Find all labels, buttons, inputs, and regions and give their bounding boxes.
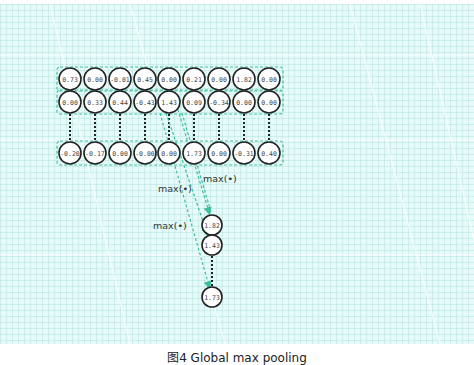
input-node: 0.45 xyxy=(134,68,156,90)
input-node: 1.43 xyxy=(158,91,180,113)
input-node-value: 1.82 xyxy=(236,76,252,84)
input-node: 0.00 xyxy=(158,142,180,164)
input-node: -0.43 xyxy=(134,91,156,113)
input-node-value: 0.21 xyxy=(186,76,202,84)
input-node: 0.00 xyxy=(208,68,230,90)
input-node-value: 1.73 xyxy=(186,150,202,158)
figure-caption: 图4 Global max pooling xyxy=(0,348,474,365)
input-node-value: 0.00 xyxy=(261,76,277,84)
input-node: 0.00 xyxy=(84,68,106,90)
output-node-value: 1.82 xyxy=(204,222,220,230)
output-node: 1.73 xyxy=(202,287,222,307)
input-node: -0.20 xyxy=(59,142,81,164)
input-node-value: 0.00 xyxy=(211,150,227,158)
output-node-value: 1.73 xyxy=(204,294,220,302)
input-node-value: 0.40 xyxy=(261,150,277,158)
input-node: 0.33 xyxy=(84,91,106,113)
input-node: -0.00 xyxy=(134,142,156,164)
background-lines xyxy=(0,4,474,344)
input-node-value: 1.43 xyxy=(161,99,177,107)
input-node: 0.00 xyxy=(258,68,280,90)
op-label-1: max(•) xyxy=(203,173,237,184)
input-node: -0.34 xyxy=(208,91,230,113)
input-node-value: 0.00 xyxy=(161,150,177,158)
input-node: 0.21 xyxy=(183,68,205,90)
input-node-value: -0.34 xyxy=(209,99,229,107)
input-node: 0.00 xyxy=(158,68,180,90)
max-pooling-diagram: 0.730.00-0.010.450.000.210.001.820.000.0… xyxy=(0,4,474,344)
input-node-value: 0.45 xyxy=(137,76,153,84)
output-node-value: 1.43 xyxy=(204,242,220,250)
input-node: 0.00 xyxy=(233,91,255,113)
input-node-value: -0.00 xyxy=(135,150,155,158)
input-node-value: 0.00 xyxy=(112,150,128,158)
input-node-value: -0.20 xyxy=(60,150,80,158)
input-node-value: 0.00 xyxy=(62,99,78,107)
input-node: 1.82 xyxy=(233,68,255,90)
input-node: 0.09 xyxy=(183,91,205,113)
input-node-value: 0.00 xyxy=(87,76,103,84)
input-node-value: 0.00 xyxy=(236,99,252,107)
ellipsis-connectors xyxy=(70,114,269,142)
input-node-value: 0.44 xyxy=(112,99,128,107)
arrow-row2 xyxy=(166,113,207,233)
input-node-value: 0.00 xyxy=(261,99,277,107)
input-node: 0.40 xyxy=(258,142,280,164)
input-node: 0.00 xyxy=(258,91,280,113)
input-node: -0.31 xyxy=(233,142,255,164)
output-node: 1.43 xyxy=(202,235,222,255)
input-node-value: -0.43 xyxy=(135,99,155,107)
op-label-2: max(•) xyxy=(158,183,192,194)
input-node: 0.44 xyxy=(109,91,131,113)
input-node: -0.17 xyxy=(84,142,106,164)
input-node: -0.01 xyxy=(109,68,131,90)
input-node-value: 0.00 xyxy=(211,76,227,84)
input-node-value: 0.09 xyxy=(186,99,202,107)
input-node: 0.73 xyxy=(59,68,81,90)
output-node: 1.82 xyxy=(202,215,222,235)
input-node: 0.00 xyxy=(109,142,131,164)
input-node: 0.00 xyxy=(208,142,230,164)
diagram-canvas: 0.730.00-0.010.450.000.210.001.820.000.0… xyxy=(0,4,474,344)
input-node: 0.00 xyxy=(59,91,81,113)
input-node-value: -0.31 xyxy=(234,150,254,158)
input-node-value: -0.17 xyxy=(85,150,105,158)
input-node-value: -0.01 xyxy=(110,76,130,84)
input-node-value: 0.33 xyxy=(87,99,103,107)
input-node-value: 0.73 xyxy=(62,76,78,84)
input-node: 1.73 xyxy=(183,142,205,164)
input-node-value: 0.00 xyxy=(161,76,177,84)
op-label-3: max(•) xyxy=(153,220,187,231)
